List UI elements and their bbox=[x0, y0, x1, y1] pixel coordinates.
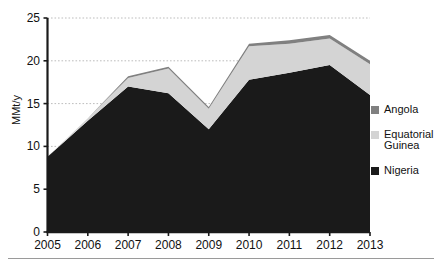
legend-item-label: Equatorial Guinea bbox=[384, 129, 442, 152]
legend-item-label: Angola bbox=[384, 104, 418, 116]
legend-swatch-icon bbox=[371, 167, 379, 175]
y-tick-label-15: 15 bbox=[14, 98, 40, 110]
y-tick-label-0: 0 bbox=[14, 226, 40, 238]
x-tick-label-2012: 2012 bbox=[310, 239, 350, 251]
legend-swatch-icon bbox=[371, 106, 379, 114]
bottom-divider-rule bbox=[8, 258, 434, 259]
chart-figure: MMt/y 2520151050 20052006200720082009201… bbox=[0, 0, 442, 266]
chart-legend: AngolaEquatorial GuineaNigeria bbox=[371, 104, 442, 189]
area-series-nigeria bbox=[48, 65, 371, 232]
y-tick-label-5: 5 bbox=[14, 183, 40, 195]
x-tick-label-2007: 2007 bbox=[108, 239, 148, 251]
legend-item-angola[interactable]: Angola bbox=[371, 104, 442, 116]
y-tick-label-20: 20 bbox=[14, 55, 40, 67]
legend-swatch-icon bbox=[371, 131, 379, 139]
legend-item-nigeria[interactable]: Nigeria bbox=[371, 165, 442, 177]
y-tick-label-10: 10 bbox=[14, 140, 40, 152]
x-tick-label-2009: 2009 bbox=[189, 239, 229, 251]
area-series-group bbox=[48, 35, 371, 232]
y-axis-tick-labels: 2520151050 bbox=[8, 0, 40, 266]
legend-item-label: Nigeria bbox=[384, 165, 419, 177]
x-tick-label-2010: 2010 bbox=[229, 239, 269, 251]
y-tick-label-25: 25 bbox=[14, 12, 40, 24]
x-tick-label-2006: 2006 bbox=[68, 239, 108, 251]
x-tick-label-2008: 2008 bbox=[148, 239, 188, 251]
legend-item-equatorial-guinea[interactable]: Equatorial Guinea bbox=[371, 129, 442, 152]
x-tick-label-2013: 2013 bbox=[350, 239, 390, 251]
x-tick-label-2005: 2005 bbox=[28, 239, 68, 251]
x-tick-label-2011: 2011 bbox=[269, 239, 309, 251]
